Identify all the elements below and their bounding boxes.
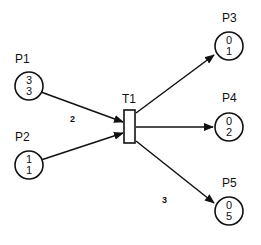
arc-t1-p3 [136, 55, 214, 113]
place-p2-value-bottom: 1 [26, 164, 32, 176]
transition-label-t1: T1 [122, 92, 136, 106]
arc-p1-t1 [41, 92, 123, 122]
arc-weight-p1-t1: 2 [70, 114, 75, 124]
petri-net-diagram: 2 3 T1 P1 3 3 P2 1 1 P3 0 1 P4 0 2 P5 0 … [0, 0, 261, 245]
arc-t1-p5 [136, 141, 214, 203]
arc-p2-t1 [41, 133, 123, 160]
place-p4-value-bottom: 2 [226, 126, 232, 138]
place-p1-value-bottom: 3 [26, 85, 32, 97]
place-label-p1: P1 [15, 52, 30, 66]
place-p5-value-bottom: 5 [226, 210, 232, 222]
arc-weight-t1-p5: 3 [162, 195, 167, 205]
place-label-p2: P2 [15, 130, 30, 144]
place-label-p4: P4 [222, 91, 237, 105]
transition-t1 [124, 110, 135, 143]
place-p3-value-bottom: 1 [226, 45, 232, 57]
place-label-p5: P5 [222, 176, 237, 190]
place-label-p3: P3 [222, 11, 237, 25]
